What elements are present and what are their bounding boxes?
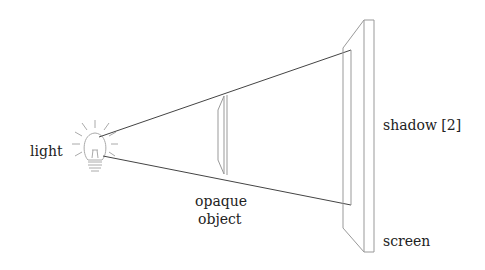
object-label-line1: opaque <box>195 193 247 210</box>
shadow-diagram <box>0 0 485 270</box>
opaque-object <box>218 95 227 175</box>
screen <box>343 20 374 252</box>
light-label: light <box>30 143 63 160</box>
shadow-label: shadow [2] <box>383 117 461 134</box>
screen-label: screen <box>383 233 430 250</box>
ray-top <box>99 50 351 137</box>
object-label-line2: object <box>198 211 241 228</box>
light-bulb-icon <box>72 120 118 171</box>
